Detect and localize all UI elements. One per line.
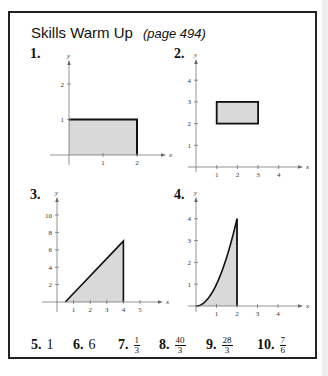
x-tick-label: 1 <box>72 306 76 314</box>
denominator: 3 <box>224 346 231 355</box>
y-tick-label: 2 <box>188 259 192 267</box>
answer-fraction: 403 <box>175 336 186 355</box>
y-axis-label: y <box>193 189 198 197</box>
answer-9: 9. 283 <box>206 334 233 356</box>
graphs-canvas: xy1212xy12341234xy12345246810xy12341234 <box>0 0 328 376</box>
y-tick-label: 6 <box>49 246 53 254</box>
y-axis-arrow-icon <box>194 59 198 64</box>
x-tick-label: 3 <box>256 171 260 179</box>
x-tick-label: 1 <box>215 171 219 179</box>
y-tick-label: 10 <box>45 212 53 220</box>
numerator: 40 <box>175 336 186 346</box>
y-tick-label: 2 <box>49 281 53 289</box>
x-axis-label: x <box>168 151 173 159</box>
answers-row: 5. 1 6. 6 7. 13 8. 403 9. 283 10. 76 <box>31 334 321 358</box>
x-tick-label: 3 <box>105 306 109 314</box>
answer-label: 7. <box>118 337 129 353</box>
y-tick-label: 3 <box>188 98 192 106</box>
x-axis-arrow-icon <box>158 300 163 304</box>
answer-value: 1 <box>47 337 54 353</box>
x-tick-label: 5 <box>138 306 142 314</box>
x-tick-label: 4 <box>277 171 281 179</box>
x-axis-arrow-icon <box>298 165 303 169</box>
y-axis-label: y <box>54 189 59 197</box>
answer-label: 8. <box>159 337 170 353</box>
answer-10: 10. 76 <box>257 334 286 356</box>
x-axis-arrow-icon <box>161 153 166 157</box>
answer-5: 5. 1 <box>31 334 54 356</box>
x-tick-label: 1 <box>101 159 105 167</box>
shaded-region <box>196 219 237 306</box>
answer-8: 8. 403 <box>159 334 186 356</box>
answer-fraction: 76 <box>280 336 287 355</box>
y-axis-label: y <box>66 52 71 60</box>
x-tick-label: 3 <box>256 310 260 318</box>
y-axis-arrow-icon <box>194 197 198 202</box>
y-tick-label: 1 <box>61 116 65 124</box>
x-axis-label: x <box>165 298 170 306</box>
y-axis-arrow-icon <box>55 197 59 202</box>
x-tick-label: 1 <box>215 310 219 318</box>
answer-label: 10. <box>257 337 275 353</box>
x-tick-label: 4 <box>276 310 280 318</box>
shaded-region <box>69 120 137 156</box>
numerator: 1 <box>134 336 141 346</box>
answer-label: 5. <box>31 337 42 353</box>
denominator: 3 <box>134 346 141 355</box>
answer-6: 6. 6 <box>73 334 96 356</box>
x-axis-arrow-icon <box>298 304 303 308</box>
answer-7: 7. 13 <box>118 334 140 356</box>
x-tick-label: 2 <box>236 171 240 179</box>
answer-label: 6. <box>73 337 84 353</box>
denominator: 3 <box>177 346 184 355</box>
y-axis-arrow-icon <box>67 60 71 65</box>
x-tick-label: 2 <box>88 306 92 314</box>
answer-fraction: 13 <box>134 336 141 355</box>
y-tick-label: 1 <box>188 281 192 289</box>
answer-label: 9. <box>206 337 217 353</box>
y-tick-label: 1 <box>188 142 192 150</box>
shaded-region <box>217 102 258 124</box>
denominator: 6 <box>280 346 287 355</box>
y-tick-label: 2 <box>61 81 65 89</box>
answer-fraction: 283 <box>222 336 233 355</box>
answer-value: 6 <box>89 337 96 353</box>
y-axis-label: y <box>193 51 198 59</box>
y-tick-label: 3 <box>188 237 192 245</box>
x-axis-label: x <box>305 163 310 171</box>
numerator: 7 <box>280 336 287 346</box>
y-tick-label: 4 <box>188 215 192 223</box>
y-tick-label: 8 <box>49 229 53 237</box>
x-axis-label: x <box>305 302 310 310</box>
x-tick-label: 4 <box>122 306 126 314</box>
x-tick-label: 2 <box>135 159 139 167</box>
x-tick-label: 2 <box>235 310 239 318</box>
y-tick-label: 4 <box>49 264 53 272</box>
y-tick-label: 2 <box>188 120 192 128</box>
y-tick-label: 4 <box>188 77 192 85</box>
numerator: 28 <box>222 336 233 346</box>
